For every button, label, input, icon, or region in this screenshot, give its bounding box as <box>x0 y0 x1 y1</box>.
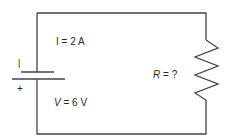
voltage-label: V = 6 V <box>54 98 87 108</box>
resistor-icon <box>195 40 218 104</box>
battery-negative-mark: | <box>18 59 20 68</box>
circuit-diagram <box>0 0 230 139</box>
battery-positive-mark: + <box>17 84 23 94</box>
resistance-label: R = ? <box>153 70 177 80</box>
current-label: I = 2 A <box>56 37 85 47</box>
